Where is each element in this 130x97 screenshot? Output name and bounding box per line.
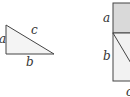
square-label-a: a bbox=[103, 11, 110, 25]
hypotenuse-label-c: c bbox=[31, 23, 38, 37]
square-label-c: c bbox=[126, 85, 130, 97]
side-label-a: a bbox=[0, 32, 6, 46]
side-label-b: b bbox=[26, 55, 34, 69]
square-figure: a b c bbox=[103, 3, 130, 97]
square-label-b: b bbox=[103, 49, 111, 63]
right-triangle: a c b bbox=[0, 23, 54, 69]
pythagoras-diagram: a c b a b c bbox=[0, 0, 130, 97]
shaded-region bbox=[113, 3, 130, 33]
